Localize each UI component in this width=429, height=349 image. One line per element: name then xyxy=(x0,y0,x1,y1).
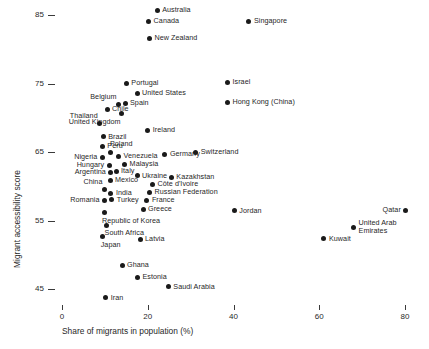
y-axis-tick-mark xyxy=(48,152,55,153)
data-point-marker xyxy=(105,107,110,112)
data-point-label: Hong Kong (China) xyxy=(232,98,294,106)
data-point-label: Portugal xyxy=(131,79,158,87)
x-axis-tick-mark xyxy=(234,305,235,310)
data-point-label: Qatar xyxy=(383,206,401,214)
x-axis-tick-label: 80 xyxy=(393,312,417,321)
data-point-marker xyxy=(101,134,106,139)
x-axis-tick-mark xyxy=(405,305,406,310)
data-point-label: Canada xyxy=(154,17,179,25)
data-point-marker xyxy=(135,91,140,96)
data-point-marker xyxy=(225,80,230,85)
data-point-label: China xyxy=(83,178,102,186)
data-point-label: Italy xyxy=(121,167,134,175)
data-point-label: Germany xyxy=(170,150,200,158)
x-axis-tick-label: 20 xyxy=(136,312,160,321)
x-axis-tick-mark xyxy=(62,305,63,310)
data-point-label: Thailand xyxy=(70,112,98,120)
data-point-marker xyxy=(321,236,326,241)
data-point-marker xyxy=(246,19,251,24)
data-point-marker xyxy=(155,8,160,13)
data-point-label: Republic of Korea xyxy=(102,217,160,225)
data-point-label: Romania xyxy=(70,196,99,204)
y-axis-tick-mark xyxy=(48,289,55,290)
data-point-marker xyxy=(232,208,237,213)
data-point-label: Mexico xyxy=(115,176,138,184)
data-point-label: Belgium xyxy=(90,93,116,101)
data-point-marker xyxy=(141,207,146,212)
x-axis-tick-label: 60 xyxy=(307,312,331,321)
data-point-marker xyxy=(147,36,152,41)
y-axis-tick-mark xyxy=(48,221,55,222)
data-point-label: Ireland xyxy=(153,126,175,134)
data-point-marker xyxy=(135,275,140,280)
data-point-label: Greece xyxy=(148,205,172,213)
data-point-label: Australia xyxy=(162,6,190,14)
data-point-label: Spain xyxy=(130,99,149,107)
data-point-label: United Arab Emirates xyxy=(359,219,399,236)
data-point-label: Jordan xyxy=(239,207,261,215)
x-axis-title: Share of migrants in population (%) xyxy=(62,326,193,336)
data-point-marker xyxy=(166,284,171,289)
plot-area: 4555657585020406080AustraliaCanadaSingap… xyxy=(0,0,429,349)
data-point-marker xyxy=(351,225,356,230)
data-point-label: Israel xyxy=(232,78,250,86)
data-point-marker xyxy=(162,152,167,157)
data-point-marker xyxy=(108,178,113,183)
data-point-marker xyxy=(145,128,150,133)
y-axis-tick-mark xyxy=(48,84,55,85)
y-axis-tick-label: 85 xyxy=(22,10,44,19)
scatter-chart: 4555657585020406080AustraliaCanadaSingap… xyxy=(0,0,429,349)
y-axis-tick-label: 55 xyxy=(22,216,44,225)
data-point-marker xyxy=(146,19,151,24)
data-point-marker xyxy=(104,223,109,228)
x-axis-tick-mark xyxy=(148,305,149,310)
y-axis-tick-mark xyxy=(48,15,55,16)
data-point-marker xyxy=(103,295,108,300)
data-point-marker xyxy=(102,210,107,215)
data-point-marker xyxy=(124,81,129,86)
data-point-label: Poland xyxy=(110,140,133,148)
data-point-marker xyxy=(100,234,105,239)
data-point-label: Kuwait xyxy=(329,235,351,243)
data-point-marker xyxy=(120,263,125,268)
data-point-label: United States xyxy=(142,89,186,97)
data-point-marker xyxy=(119,111,124,116)
data-point-label: Saudi Arabia xyxy=(173,283,214,291)
data-point-label: Argentina xyxy=(75,168,106,176)
data-point-marker xyxy=(108,170,113,175)
data-point-label: Turkey xyxy=(117,196,139,204)
y-axis-tick-label: 45 xyxy=(22,284,44,293)
data-point-marker xyxy=(109,197,114,202)
data-point-label: New Zealand xyxy=(154,34,197,42)
data-point-label: Iran xyxy=(111,294,124,302)
data-point-marker xyxy=(116,154,121,159)
data-point-label: South Africa xyxy=(105,229,144,237)
data-point-marker xyxy=(144,198,149,203)
data-point-marker xyxy=(100,144,105,149)
data-point-label: Switzerland xyxy=(201,148,239,156)
data-point-label: Estonia xyxy=(142,273,166,281)
y-axis-title: Migrant accessibility score xyxy=(12,144,22,294)
data-point-marker xyxy=(147,190,152,195)
x-axis-tick-mark xyxy=(319,305,320,310)
data-point-label: Ghana xyxy=(127,261,149,269)
data-point-marker xyxy=(107,163,112,168)
data-point-label: Latvia xyxy=(145,235,164,243)
data-point-marker xyxy=(108,191,113,196)
y-axis-tick-label: 65 xyxy=(22,147,44,156)
data-point-marker xyxy=(102,187,107,192)
data-point-marker xyxy=(108,150,113,155)
data-point-marker xyxy=(403,208,408,213)
data-point-label: Japan xyxy=(101,241,121,249)
data-point-marker xyxy=(225,100,230,105)
y-axis-tick-label: 75 xyxy=(22,79,44,88)
x-axis-tick-label: 40 xyxy=(222,312,246,321)
data-point-marker xyxy=(114,169,119,174)
data-point-marker xyxy=(102,198,107,203)
data-point-marker xyxy=(97,121,102,126)
data-point-label: Singapore xyxy=(254,17,287,25)
data-point-marker xyxy=(138,237,143,242)
x-axis-tick-label: 0 xyxy=(50,312,74,321)
